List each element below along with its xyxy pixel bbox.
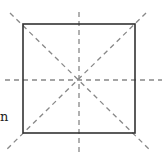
diagonal-symmetry-line-main <box>10 13 150 150</box>
partial-label: n <box>0 110 8 123</box>
diagonal-symmetry-line-anti <box>6 13 146 150</box>
symmetry-diagram <box>0 0 164 157</box>
